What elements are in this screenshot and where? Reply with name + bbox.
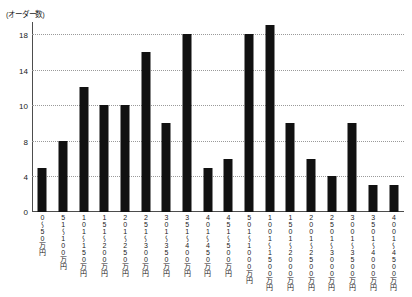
bar [203, 168, 212, 213]
x-axis-tick-label: 151〜200万円 [101, 214, 108, 277]
x-axis-labels: 0〜50万円51〜100万円101〜150万円151〜200万円201〜250万… [32, 214, 404, 297]
x-axis-tick-label: 51〜100万円 [59, 214, 66, 270]
bar [100, 105, 109, 212]
y-axis-tick-label: 8 [24, 137, 28, 146]
bar-slot [197, 22, 218, 212]
bar [79, 87, 88, 212]
x-axis-tick-label: 251〜300万円 [142, 214, 149, 277]
x-axis-tick-label: 3501〜4000万円 [369, 214, 376, 291]
x-axis-tick-label: 1501〜2000万円 [287, 214, 294, 291]
y-axis-tick-label: 18 [19, 31, 28, 40]
x-axis-tick-label: 101〜150万円 [80, 214, 87, 277]
bar-slot [115, 22, 136, 212]
bar-slot [383, 22, 404, 212]
bar-slot [94, 22, 115, 212]
bar-slot [218, 22, 239, 212]
x-axis-tick-label: 2001〜2500万円 [307, 214, 314, 291]
y-axis-tick-label: 0 [24, 208, 28, 217]
y-axis-unit-label: (オーダー数) [6, 8, 45, 19]
x-axis-tick-label: 4001〜4500万円 [390, 214, 397, 291]
bar [182, 34, 191, 212]
x-axis-tick-label: 0〜50万円 [39, 214, 46, 256]
bar [286, 123, 295, 212]
bar-slot [259, 22, 280, 212]
y-axis-tick-label: 10 [19, 102, 28, 111]
bar [389, 185, 398, 212]
x-axis-tick-label: 301〜350万円 [163, 214, 170, 277]
x-axis-tick-label: 351〜400万円 [183, 214, 190, 277]
bar-slot [53, 22, 74, 212]
bar-slot [156, 22, 177, 212]
bar-slot [342, 22, 363, 212]
bar-chart: (オーダー数) 048101418 0〜50万円51〜100万円101〜150万… [0, 0, 412, 297]
bar-slot [321, 22, 342, 212]
x-axis-tick-label: 401〜450万円 [204, 214, 211, 277]
bar [306, 159, 315, 212]
bar-series [32, 22, 404, 212]
bar [348, 123, 357, 212]
bar [38, 168, 47, 213]
bar [265, 25, 274, 212]
bar-slot [177, 22, 198, 212]
x-axis-tick-label: 201〜250万円 [121, 214, 128, 277]
bar [120, 105, 129, 212]
x-axis-tick-label: 451〜500万円 [225, 214, 232, 277]
bar-slot [363, 22, 384, 212]
bar-slot [135, 22, 156, 212]
x-axis-tick-label: 501〜1000万円 [245, 214, 252, 284]
y-axis-tick-label: 4 [24, 173, 28, 182]
bar-slot [280, 22, 301, 212]
x-axis-tick-label: 1001〜1500万円 [266, 214, 273, 291]
bar-slot [239, 22, 260, 212]
bar [224, 159, 233, 212]
bar-slot [73, 22, 94, 212]
plot-area: 048101418 [32, 22, 404, 212]
bar-slot [301, 22, 322, 212]
x-axis-tick-label: 3001〜3500万円 [349, 214, 356, 291]
bar-slot [32, 22, 53, 212]
bar [368, 185, 377, 212]
bar [244, 34, 253, 212]
x-axis-tick-label: 2501〜3000万円 [328, 214, 335, 291]
bar [58, 141, 67, 212]
bar [141, 52, 150, 212]
bar [327, 176, 336, 212]
y-axis-tick-label: 14 [19, 66, 28, 75]
bar [162, 123, 171, 212]
